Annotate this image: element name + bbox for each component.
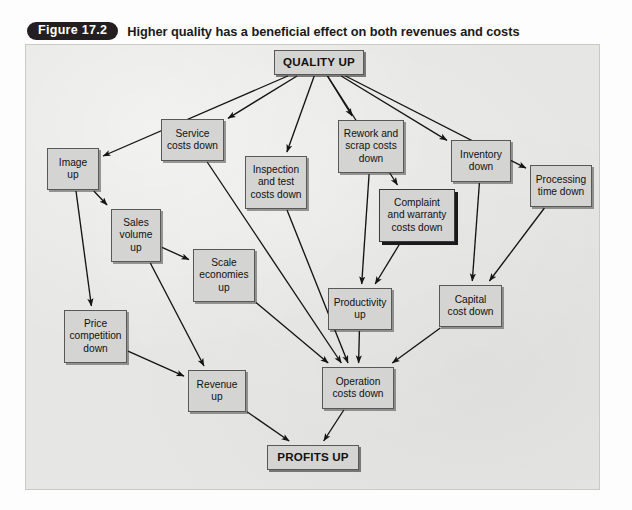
node-price-competition[interactable]: Price competition down xyxy=(64,310,127,363)
node-operation-costs[interactable]: Operation costs down xyxy=(322,367,394,409)
node-productivity-up[interactable]: Productivity up xyxy=(328,288,392,330)
node-processing-time[interactable]: Processing time down xyxy=(530,165,592,207)
node-profits-up[interactable]: PROFITS UP xyxy=(267,445,359,470)
edge-capital-cost-to-operation-costs xyxy=(392,328,440,363)
node-rework-scrap[interactable]: Rework and scrap costs down xyxy=(338,120,404,173)
figure-number-badge: Figure 17.2 xyxy=(27,22,118,41)
node-sales-volume[interactable]: Sales volume up xyxy=(111,209,161,262)
figure-caption-text: Higher quality has a beneficial effect o… xyxy=(127,24,519,39)
node-quality-up[interactable]: QUALITY UP xyxy=(274,50,364,75)
edge-inventory-down-to-capital-cost xyxy=(472,183,479,281)
edge-rework-scrap-to-productivity-up xyxy=(362,174,369,284)
arrow-layer xyxy=(26,45,601,491)
node-scale-economies[interactable]: Scale economies up xyxy=(193,249,255,302)
node-inventory-down[interactable]: Inventory down xyxy=(451,140,511,182)
edge-productivity-up-to-operation-costs xyxy=(359,331,360,363)
edge-quality-up-to-inspection-test xyxy=(287,76,314,152)
node-inspection-test[interactable]: Inspection and test costs down xyxy=(245,156,307,209)
edge-revenue-up-to-profits-up xyxy=(247,412,289,441)
node-image-up[interactable]: Image up xyxy=(47,148,99,190)
node-capital-cost[interactable]: Capital cost down xyxy=(439,285,502,327)
edge-complaint-warranty-to-productivity-up xyxy=(375,243,400,284)
figure-caption: Figure 17.2 Higher quality has a benefic… xyxy=(27,20,519,42)
edge-image-up-to-sales-volume xyxy=(94,191,107,205)
edge-image-up-to-price-competition xyxy=(76,191,91,306)
node-service-costs[interactable]: Service costs down xyxy=(161,119,224,161)
node-complaint-warranty[interactable]: Complaint and warranty costs down xyxy=(379,189,455,242)
edge-processing-time-to-capital-cost xyxy=(489,208,544,281)
node-revenue-up[interactable]: Revenue up xyxy=(188,370,246,412)
edge-inspection-test-to-operation-costs xyxy=(287,210,348,363)
figure-frame: QUALITY UPImage upService costs downInsp… xyxy=(25,44,600,490)
edge-scale-economies-to-operation-costs xyxy=(256,302,328,363)
edge-operation-costs-to-profits-up xyxy=(324,410,344,441)
edge-sales-volume-to-scale-economies xyxy=(162,247,189,259)
edge-price-competition-to-revenue-up xyxy=(128,351,184,376)
